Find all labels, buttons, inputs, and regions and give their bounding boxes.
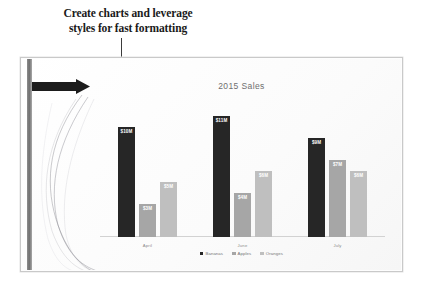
chart-group: $10M$3M$5MApril [100, 105, 195, 237]
chart-bar-value-label: $10M [121, 129, 133, 134]
chart-legend-swatch [200, 252, 204, 256]
chart-bar[interactable]: $4M [234, 193, 251, 237]
chart-category-label: June [195, 243, 290, 248]
slide-canvas: 2015 Sales $10M$3M$5MApril$11M$4M$6MJune… [22, 59, 401, 270]
chart-legend-swatch [260, 252, 264, 256]
chart-plot-area: $10M$3M$5MApril$11M$4M$6MJune$9M$7M$6MJu… [100, 105, 385, 237]
chart-legend-label: Oranges [266, 251, 283, 256]
chart-group: $11M$4M$6MJune [195, 105, 290, 237]
chart-legend-swatch [232, 252, 236, 256]
chart-bar-value-label: $3M [143, 206, 152, 211]
chart-bar[interactable]: $6M [255, 171, 272, 237]
chart-bar[interactable]: $7M [329, 160, 346, 237]
annotation-caption-line-1: Create charts and leverage [40, 6, 216, 21]
chart-bar[interactable]: $11M [213, 116, 230, 237]
chart-category-label: July [290, 243, 385, 248]
chart-bar-value-label: $4M [238, 195, 247, 200]
chart-bar[interactable]: $10M [118, 127, 135, 237]
chart-bar[interactable]: $6M [350, 171, 367, 237]
chart-bar-value-label: $6M [259, 173, 268, 178]
chart-bar[interactable]: $3M [139, 204, 156, 237]
annotation-caption: Create charts and leverage styles for fa… [40, 6, 216, 35]
slide-frame[interactable]: 2015 Sales $10M$3M$5MApril$11M$4M$6MJune… [20, 57, 403, 272]
chart-title: 2015 Sales [94, 81, 389, 91]
chart-legend-label: Apples [238, 251, 252, 256]
chart-legend: BananasApplesOranges [94, 251, 389, 256]
chart-legend-item[interactable]: Apples [232, 251, 251, 256]
chart-bar-value-label: $5M [164, 184, 173, 189]
chart-bar-value-label: $9M [312, 140, 321, 145]
chart-legend-item[interactable]: Bananas [200, 251, 223, 256]
chart-legend-item[interactable]: Oranges [260, 251, 283, 256]
chart-bar[interactable]: $5M [160, 182, 177, 237]
annotation-caption-line-2: styles for fast formatting [40, 21, 216, 36]
chart-bar-value-label: $11M [216, 118, 228, 123]
chart-category-label: April [100, 243, 195, 248]
chart-bar[interactable]: $9M [308, 138, 325, 237]
chart-legend-label: Bananas [205, 251, 223, 256]
chart-container[interactable]: 2015 Sales $10M$3M$5MApril$11M$4M$6MJune… [94, 75, 389, 264]
chart-group: $9M$7M$6MJuly [290, 105, 385, 237]
chart-bar-value-label: $6M [354, 173, 363, 178]
chart-bar-value-label: $7M [333, 162, 342, 167]
arrow-icon [32, 79, 90, 94]
